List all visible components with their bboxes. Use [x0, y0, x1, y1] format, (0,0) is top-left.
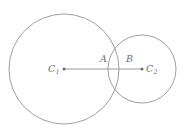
- label-c1-subscript: 1: [56, 68, 60, 76]
- geometry-figure: C1 A B C2: [0, 0, 188, 129]
- label-c1-base: C: [48, 63, 55, 74]
- label-c2-base: C: [146, 63, 153, 74]
- label-a-base: A: [100, 53, 107, 64]
- label-c1: C1: [48, 64, 59, 74]
- center-point-c1-dot: [63, 68, 66, 71]
- geometry-canvas: [0, 0, 188, 129]
- label-b-base: B: [126, 53, 133, 64]
- label-a: A: [100, 54, 107, 64]
- label-b: B: [126, 54, 133, 64]
- label-c2-subscript: 2: [154, 68, 158, 76]
- center-point-c2-dot: [141, 68, 144, 71]
- label-c2: C2: [146, 64, 157, 74]
